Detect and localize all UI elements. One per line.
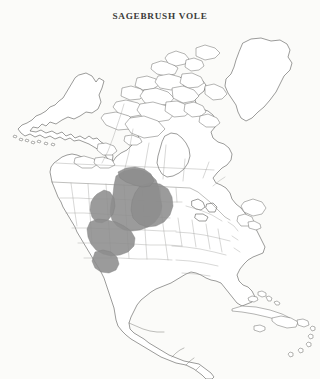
- page-title: SAGEBRUSH VOLE: [0, 11, 320, 21]
- greenland-landmass: [225, 38, 292, 121]
- cut-off-running-text: [38, 0, 148, 4]
- distribution-map: [0, 26, 320, 379]
- map-svg: [0, 26, 320, 379]
- scanned-page: SAGEBRUSH VOLE: [0, 0, 320, 379]
